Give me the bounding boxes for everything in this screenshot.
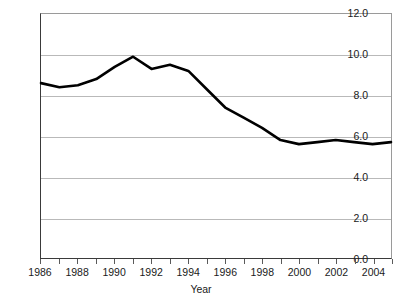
x-tick-label-1998: 1998 [251,266,274,278]
x-tick-2003 [355,259,356,264]
x-tick-1995 [207,259,208,264]
y-tick-label-2.0: 2.0 [353,213,368,223]
y-tick-label-4.0: 4.0 [353,172,368,182]
x-tick-1996 [225,259,226,264]
x-tick-label-2000: 2000 [288,266,311,278]
x-tick-1998 [262,259,263,264]
x-axis-title: Year [0,283,402,295]
x-tick-1991 [133,259,134,264]
x-tick-1988 [77,259,78,264]
x-tick-label-1988: 1988 [65,266,88,278]
series-line-rate [41,14,391,258]
y-tick-label-12.0: 12.0 [348,8,368,18]
x-tick-1993 [170,259,171,264]
x-tick-1992 [151,259,152,264]
x-tick-2001 [318,259,319,264]
x-tick-2000 [299,259,300,264]
x-tick-label-1994: 1994 [177,266,200,278]
series-polyline [41,57,391,144]
x-tick-label-2004: 2004 [362,266,385,278]
x-tick-1999 [281,259,282,264]
x-tick-2004 [374,259,375,264]
y-tick-label-8.0: 8.0 [353,90,368,100]
x-tick-1994 [188,259,189,264]
x-tick-label-1990: 1990 [102,266,125,278]
x-tick-1989 [96,259,97,264]
x-tick-1987 [59,259,60,264]
x-tick-label-1992: 1992 [140,266,163,278]
x-tick-1990 [114,259,115,264]
x-tick-label-2002: 2002 [325,266,348,278]
x-tick-2002 [336,259,337,264]
y-tick-label-6.0: 6.0 [353,131,368,141]
x-tick-1997 [244,259,245,264]
x-tick-label-1996: 1996 [214,266,237,278]
x-tick-2005 [392,259,393,264]
line-chart: 0.02.04.06.08.010.012.0 1986198819901992… [0,0,402,301]
x-tick-label-1986: 1986 [28,266,51,278]
x-tick-1986 [40,259,41,264]
plot-area [40,13,392,259]
y-tick-label-10.0: 10.0 [348,49,368,59]
